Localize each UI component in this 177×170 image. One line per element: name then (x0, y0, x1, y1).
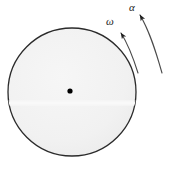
omega-label: ω (106, 15, 114, 27)
diagram-svg: ω α (0, 0, 177, 170)
figure-canvas: ω α (0, 0, 177, 170)
alpha-label: α (129, 1, 135, 13)
center-dot (67, 88, 72, 93)
crease-highlight-soft (4, 100, 144, 106)
alpha-arrow (140, 15, 162, 73)
crease-group (4, 100, 144, 106)
